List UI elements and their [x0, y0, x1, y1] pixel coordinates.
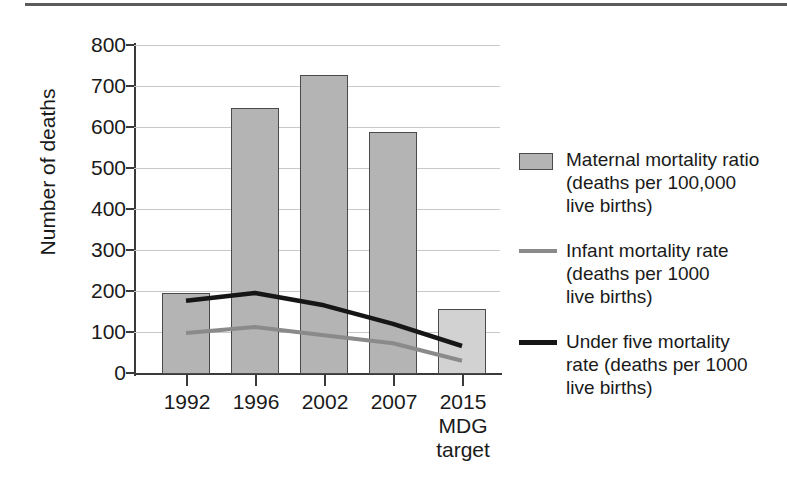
legend-swatch-wrap-maternal	[519, 148, 566, 170]
legend-swatch-wrap-infant	[519, 239, 566, 253]
x-tick-mark-1992	[186, 375, 188, 386]
x-tick-mark-2007	[393, 375, 395, 386]
y-tick-label-300: 300	[56, 239, 126, 260]
legend-label-infant: Infant mortality rate (deaths per 1000 l…	[566, 239, 729, 308]
y-axis-title: Number of deaths	[36, 62, 60, 282]
black-line-swatch-icon	[519, 340, 557, 345]
legend-entry-infant: Infant mortality rate (deaths per 1000 l…	[519, 239, 781, 308]
x-tick-mark-2015	[462, 375, 464, 386]
top-rule-divider	[25, 3, 787, 6]
line-under-five-mortality	[186, 293, 462, 346]
x-tick-mark-1996	[255, 375, 257, 386]
x-tick-mark-2002	[324, 375, 326, 386]
y-tick-label-0: 0	[56, 362, 126, 383]
legend-entry-under-five: Under five mortality rate (deaths per 10…	[519, 330, 781, 399]
y-tick-label-800: 800	[56, 34, 126, 55]
chart-legend: Maternal mortality ratio (deaths per 100…	[519, 148, 781, 421]
y-tick-label-100: 100	[56, 321, 126, 342]
y-tick-label-700: 700	[56, 75, 126, 96]
x-sublabel-target: target	[408, 438, 518, 462]
legend-swatch-wrap-under-five	[519, 330, 566, 345]
chart-figure: 800 700 600 500 400 300 200 100 0 Number…	[0, 0, 787, 485]
y-tick-label-500: 500	[56, 157, 126, 178]
legend-label-under-five: Under five mortality rate (deaths per 10…	[566, 330, 748, 399]
plot-area	[134, 45, 500, 374]
legend-label-maternal: Maternal mortality ratio (deaths per 100…	[566, 148, 759, 217]
gray-line-swatch-icon	[519, 249, 557, 253]
legend-entry-maternal: Maternal mortality ratio (deaths per 100…	[519, 148, 781, 217]
x-label-2015: 2015	[408, 390, 518, 414]
x-sublabel-mdg: MDG	[408, 414, 518, 438]
y-tick-label-400: 400	[56, 198, 126, 219]
y-tick-label-200: 200	[56, 280, 126, 301]
line-series-layer	[134, 45, 500, 374]
y-tick-label-600: 600	[56, 116, 126, 137]
filled-square-swatch-icon	[519, 153, 553, 170]
